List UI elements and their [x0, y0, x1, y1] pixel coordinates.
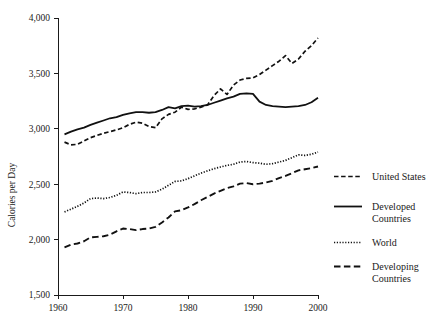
y-tick-label: 2,000 [29, 235, 51, 245]
y-tick-label: 4,000 [29, 13, 51, 23]
y-axis-title: Calories per Day [7, 163, 17, 228]
axes-group [58, 18, 318, 295]
x-axis-tick-labels: 19601970198019902000 [49, 303, 328, 313]
y-axis-tick-labels: 1,5002,0002,5003,0003,5004,000 [29, 13, 51, 300]
legend-label-line2[interactable]: Countries [372, 273, 411, 284]
series-line [65, 38, 319, 145]
series-line [65, 93, 319, 134]
y-tick-label: 3,000 [29, 124, 51, 134]
legend-label-line2[interactable]: Countries [372, 213, 411, 224]
chart-figure: 1,5002,0002,5003,0003,5004,000 196019701… [0, 0, 431, 326]
line-chart: 1,5002,0002,5003,0003,5004,000 196019701… [0, 0, 431, 326]
x-tick-label: 1990 [244, 303, 263, 313]
data-series-group [65, 38, 319, 247]
x-tick-label: 1980 [179, 303, 198, 313]
axis-spines [58, 18, 318, 295]
legend-label[interactable]: United States [372, 171, 426, 182]
x-tick-label: 1970 [114, 303, 133, 313]
chart-legend: United StatesDevelopedCountriesWorldDeve… [334, 171, 426, 284]
y-tick-label: 2,500 [29, 180, 51, 190]
y-tick-label: 3,500 [29, 69, 51, 79]
legend-label[interactable]: World [372, 237, 397, 248]
series-line [65, 166, 319, 247]
legend-label[interactable]: Developed [372, 201, 415, 212]
legend-label[interactable]: Developing [372, 261, 419, 272]
y-tick-label: 1,500 [29, 290, 51, 300]
axis-ticks-group [54, 18, 318, 299]
series-line [65, 152, 319, 212]
x-tick-label: 1960 [49, 303, 68, 313]
x-tick-label: 2000 [309, 303, 328, 313]
